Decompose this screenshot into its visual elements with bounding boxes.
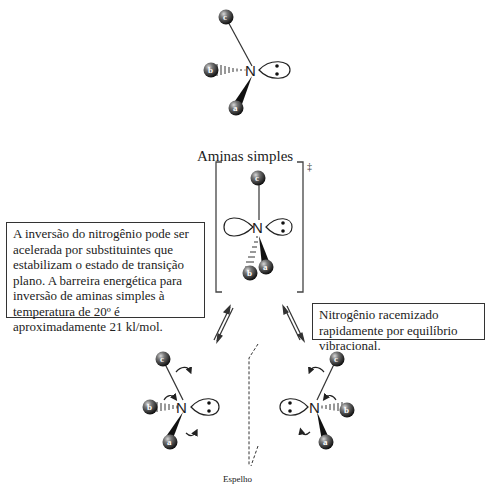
diagram-title: Aminas simples [0, 148, 490, 165]
svg-text:a: a [263, 262, 268, 272]
svg-text:N: N [252, 219, 263, 236]
svg-text:a: a [233, 103, 238, 113]
transition-state: ‡ N c b a [216, 161, 312, 292]
note-racemization: Nitrogênio racemizado rapidamente por eq… [312, 303, 485, 340]
enantiomer-right: N c b a [280, 352, 355, 450]
svg-text:b: b [147, 402, 152, 412]
svg-text:a: a [167, 437, 172, 447]
equilibrium-arrow-right [283, 306, 304, 341]
svg-text:c: c [334, 354, 338, 364]
enantiomer-left: N c b a [143, 352, 220, 450]
svg-text:N: N [309, 399, 320, 416]
equilibrium-arrow-left [214, 306, 233, 342]
amine-top: N c b a [204, 10, 291, 116]
mirror-label: Espelho [223, 474, 252, 484]
svg-text:b: b [247, 268, 252, 278]
svg-text:c: c [255, 173, 259, 183]
svg-text:N: N [176, 399, 187, 416]
svg-text:N: N [245, 62, 256, 79]
svg-text:b: b [208, 65, 213, 75]
svg-text:c: c [223, 12, 227, 22]
svg-text:a: a [323, 437, 328, 447]
svg-text:c: c [160, 354, 164, 364]
svg-text:b: b [344, 405, 349, 415]
mirror-plane [249, 344, 258, 466]
note-inversion-barrier: A inversão do nitrogênio pode ser aceler… [6, 222, 205, 318]
